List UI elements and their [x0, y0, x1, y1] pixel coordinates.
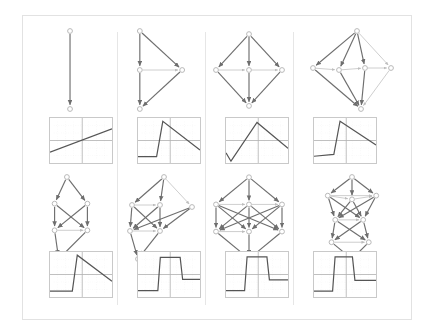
- plot-panel-r4c2: [137, 251, 201, 298]
- graph-panel-r1c4: [295, 22, 409, 118]
- graph-edge: [335, 222, 361, 240]
- graph-edge: [218, 72, 246, 103]
- graph-edge: [329, 199, 334, 216]
- graph-edge: [130, 208, 131, 227]
- graph-node: [85, 228, 90, 233]
- graph-edge: [364, 223, 368, 238]
- graph-edge: [331, 179, 350, 193]
- graph-edge: [338, 222, 366, 240]
- graph-node: [130, 203, 135, 208]
- graph-node: [280, 229, 285, 234]
- graph-diagram: [119, 22, 203, 118]
- graph-edge: [142, 33, 179, 67]
- waveform-plot: [314, 252, 376, 297]
- graph-node: [247, 104, 252, 109]
- graph-node: [214, 202, 219, 207]
- graph-edge: [363, 70, 389, 105]
- graph-node: [247, 202, 252, 207]
- graph-edge: [161, 180, 164, 201]
- plot-panel-r2c2: [137, 117, 201, 164]
- graph-node: [363, 66, 368, 71]
- graph-edge: [69, 179, 85, 200]
- graph-edge: [252, 72, 280, 103]
- graph-node: [350, 175, 355, 180]
- plot-panel-r4c4: [313, 251, 377, 298]
- graph-edge: [135, 179, 162, 202]
- graph-edge: [131, 234, 137, 255]
- waveform-plot: [50, 118, 112, 163]
- graph-node: [68, 29, 73, 34]
- graph-node: [333, 217, 338, 222]
- graph-node: [311, 66, 316, 71]
- graph-node: [355, 29, 360, 34]
- graph-node: [52, 228, 57, 233]
- graph-diagram: [207, 22, 291, 118]
- waveform-plot: [314, 118, 376, 163]
- graph-node: [65, 175, 70, 180]
- graph-node: [247, 32, 252, 37]
- graph-edge: [143, 72, 180, 106]
- graph-edge: [251, 36, 279, 67]
- plot-panel-r4c1: [49, 251, 113, 298]
- graph-node: [137, 29, 142, 34]
- graph-node: [52, 201, 57, 206]
- waveform-plot: [226, 252, 288, 297]
- graph-node: [214, 229, 219, 234]
- plot-trace: [138, 257, 200, 290]
- graph-node: [68, 107, 73, 112]
- graph-edge: [332, 223, 335, 238]
- graph-node: [158, 203, 163, 208]
- figure-frame: [22, 15, 412, 320]
- column-divider-3: [293, 32, 294, 305]
- graph-edge: [219, 179, 246, 202]
- waveform-plot: [50, 252, 112, 297]
- graph-edge: [56, 180, 65, 200]
- graph-node: [247, 175, 252, 180]
- graph-diagram: [295, 22, 409, 118]
- graph-node: [247, 229, 252, 234]
- graph-edge: [219, 36, 247, 67]
- column-divider-1: [117, 32, 118, 305]
- graph-edge: [134, 208, 189, 229]
- graph-edge: [354, 179, 373, 193]
- graph-edge: [57, 206, 84, 228]
- plot-panel-r2c4: [313, 117, 377, 164]
- graph-node: [158, 229, 163, 234]
- graph-edge: [331, 196, 348, 199]
- graph-node: [214, 68, 219, 73]
- graph-node: [337, 68, 342, 73]
- graph-node: [325, 193, 330, 198]
- graph-node: [350, 197, 355, 202]
- waveform-plot: [138, 118, 200, 163]
- column-divider-2: [205, 32, 206, 305]
- plot-trace: [314, 257, 376, 291]
- graph-edge: [219, 206, 246, 229]
- graph-edge: [361, 71, 364, 105]
- graph-node: [128, 229, 133, 234]
- graph-edge: [251, 206, 278, 229]
- graph-node: [137, 107, 142, 112]
- graph-node: [366, 240, 371, 245]
- plot-trace: [226, 257, 288, 291]
- graph-edge: [315, 70, 358, 106]
- waveform-plot: [226, 118, 288, 163]
- graph-diagram: [27, 22, 115, 118]
- graph-edge: [340, 73, 358, 106]
- graph-panel-r1c1: [27, 22, 115, 118]
- graph-edge: [163, 209, 189, 229]
- graph-node: [180, 68, 185, 73]
- graph-edge: [316, 68, 335, 69]
- graph-node: [247, 68, 252, 73]
- graph-node: [280, 68, 285, 73]
- graph-node: [374, 193, 379, 198]
- graph-node: [329, 240, 334, 245]
- graph-edge: [355, 196, 372, 199]
- graph-node: [361, 217, 366, 222]
- plot-panel-r2c3: [225, 117, 289, 164]
- waveform-plot: [138, 252, 200, 297]
- graph-edge: [251, 179, 278, 202]
- plot-panel-r2c1: [49, 117, 113, 164]
- graph-node: [280, 202, 285, 207]
- graph-edge: [342, 68, 361, 69]
- graph-node: [137, 68, 142, 73]
